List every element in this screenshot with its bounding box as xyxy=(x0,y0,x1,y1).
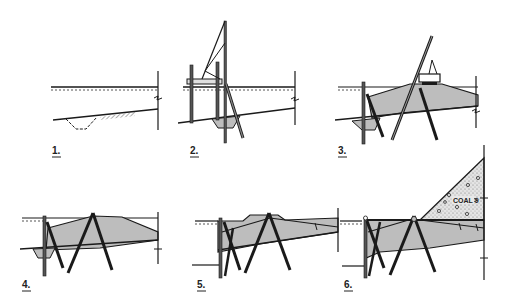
panel-label-1: 1. xyxy=(52,145,61,156)
construction-sequence-diagram: 1. 2. xyxy=(0,0,507,302)
panel-5: 5. xyxy=(192,208,338,291)
panel-1: 1. xyxy=(51,71,162,157)
panel-label-6: 6. xyxy=(344,279,353,290)
panel-label-3: 3. xyxy=(338,145,347,156)
panel-2: 2. xyxy=(178,21,299,157)
panel-6: COAL 9 6. xyxy=(340,145,488,291)
panel-label-5: 5. xyxy=(197,279,206,290)
coal-seam-label: COAL 9 xyxy=(453,197,479,204)
panel-3: 3. xyxy=(335,36,480,157)
panel-label-4: 4. xyxy=(22,279,31,290)
panel-label-2: 2. xyxy=(190,145,199,156)
panel-4: 4. xyxy=(20,212,162,291)
